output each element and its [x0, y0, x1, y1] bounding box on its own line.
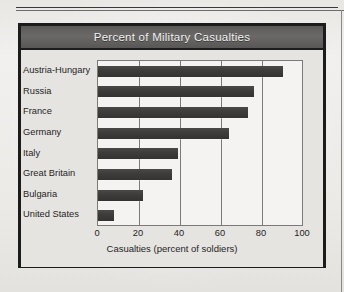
- category-axis: Austria-HungaryRussiaFranceGermanyItalyG…: [23, 60, 97, 226]
- chart-title-bar: Percent of Military Casualties: [21, 26, 323, 50]
- category-label-france: France: [23, 101, 97, 122]
- category-label-bulgaria: Bulgaria: [23, 184, 97, 205]
- page-rule-right-margin: [341, 10, 342, 292]
- bar-italy: [98, 148, 178, 159]
- x-axis-label: Casualties (percent of soldiers): [21, 243, 323, 254]
- plot-area: [97, 60, 303, 226]
- page-rule-top: [16, 7, 338, 8]
- x-tick-label-100: 100: [294, 228, 310, 238]
- category-label-united-states: United States: [23, 204, 97, 225]
- x-tick-label-40: 40: [174, 228, 184, 238]
- bar-great-britain: [98, 169, 172, 180]
- bar-row: [98, 164, 172, 185]
- bar-russia: [98, 86, 254, 97]
- category-label-austria-hungary: Austria-Hungary: [23, 60, 97, 81]
- gridline-80: [262, 61, 263, 225]
- bar-row: [98, 82, 254, 103]
- category-label-germany: Germany: [23, 122, 97, 143]
- bar-bulgaria: [98, 190, 143, 201]
- bar-row: [98, 61, 283, 82]
- bar-row: [98, 185, 143, 206]
- bar-row: [98, 144, 178, 165]
- chart-title: Percent of Military Casualties: [94, 31, 250, 43]
- x-axis-ticks: 020406080100: [97, 228, 303, 241]
- bar-austria-hungary: [98, 66, 283, 77]
- page-rule-secondary: [16, 10, 344, 11]
- bar-row: [98, 123, 229, 144]
- category-label-great-britain: Great Britain: [23, 163, 97, 184]
- category-label-russia: Russia: [23, 81, 97, 102]
- bar-germany: [98, 128, 229, 139]
- x-tick-label-80: 80: [256, 228, 266, 238]
- chart-body: Austria-HungaryRussiaFranceGermanyItalyG…: [21, 50, 323, 267]
- bar-row: [98, 205, 114, 226]
- bar-united-states: [98, 210, 114, 221]
- bar-france: [98, 107, 248, 118]
- x-tick-label-60: 60: [215, 228, 225, 238]
- bar-row: [98, 102, 248, 123]
- category-label-italy: Italy: [23, 143, 97, 164]
- x-tick-label-20: 20: [133, 228, 143, 238]
- chart-card: Percent of Military Casualties Austria-H…: [18, 23, 326, 268]
- x-tick-label-0: 0: [94, 228, 99, 238]
